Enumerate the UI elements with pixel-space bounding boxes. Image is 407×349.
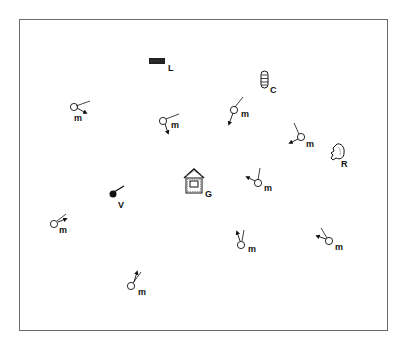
agent-label: m bbox=[335, 242, 343, 252]
landmark-v-label: V bbox=[118, 200, 124, 210]
agent-label: m bbox=[306, 139, 314, 149]
agent-arrow-icon bbox=[290, 139, 298, 143]
agent-label: m bbox=[59, 225, 67, 235]
agent-arrow-icon bbox=[165, 124, 168, 133]
agent-arrow-icon bbox=[237, 232, 240, 241]
landmark-c-capsule-icon bbox=[261, 71, 268, 88]
agent-heading-line bbox=[294, 123, 299, 134]
landmark-r-rock-icon bbox=[331, 144, 344, 160]
agent-2: m bbox=[159, 114, 179, 133]
agent-7: m bbox=[237, 230, 256, 254]
agent-label: m bbox=[138, 287, 146, 297]
agent-arrow-icon bbox=[134, 272, 137, 282]
agent-body-icon bbox=[230, 106, 237, 113]
agent-arrow-icon bbox=[317, 236, 326, 239]
agent-heading-line bbox=[76, 101, 90, 106]
agent-3: m bbox=[229, 97, 249, 124]
agent-body-icon bbox=[159, 117, 166, 124]
agent-4: m bbox=[290, 123, 314, 149]
agent-body-icon bbox=[50, 220, 57, 227]
agent-9: m bbox=[127, 272, 146, 297]
landmark-l-bar-icon bbox=[149, 58, 165, 64]
agent-heading-line bbox=[166, 114, 179, 119]
landmark-g-house-icon bbox=[184, 169, 204, 193]
agent-body-icon bbox=[237, 241, 244, 248]
agent-body-icon bbox=[127, 282, 134, 289]
agent-label: m bbox=[248, 244, 256, 254]
agent-label: m bbox=[74, 113, 82, 123]
agent-arrow-icon bbox=[247, 177, 255, 181]
agent-heading-line bbox=[242, 230, 244, 241]
agent-label: m bbox=[171, 120, 179, 130]
agent-label: m bbox=[264, 183, 272, 193]
agent-body-icon bbox=[325, 237, 332, 244]
agent-1: m bbox=[70, 101, 90, 123]
agent-arrow-icon bbox=[229, 113, 233, 124]
agent-heading-line bbox=[258, 168, 260, 180]
agent-8: m bbox=[317, 228, 343, 252]
agent-6: m bbox=[50, 214, 67, 235]
landmark-r-label: R bbox=[341, 159, 348, 169]
agent-label: m bbox=[241, 109, 249, 119]
landmark-g-label: G bbox=[205, 189, 212, 199]
agent-body-icon bbox=[254, 179, 261, 186]
agent-body-icon bbox=[297, 133, 304, 140]
landmark-l-label: L bbox=[168, 63, 174, 73]
agent-heading-line bbox=[321, 228, 327, 238]
environment-scene: L C R G V m m bbox=[0, 0, 407, 349]
agent-5: m bbox=[247, 168, 272, 193]
landmark-c-label: C bbox=[270, 85, 277, 95]
agent-body-icon bbox=[70, 103, 77, 110]
landmark-v-dot-icon bbox=[110, 186, 125, 198]
agent-heading-line bbox=[235, 97, 243, 107]
